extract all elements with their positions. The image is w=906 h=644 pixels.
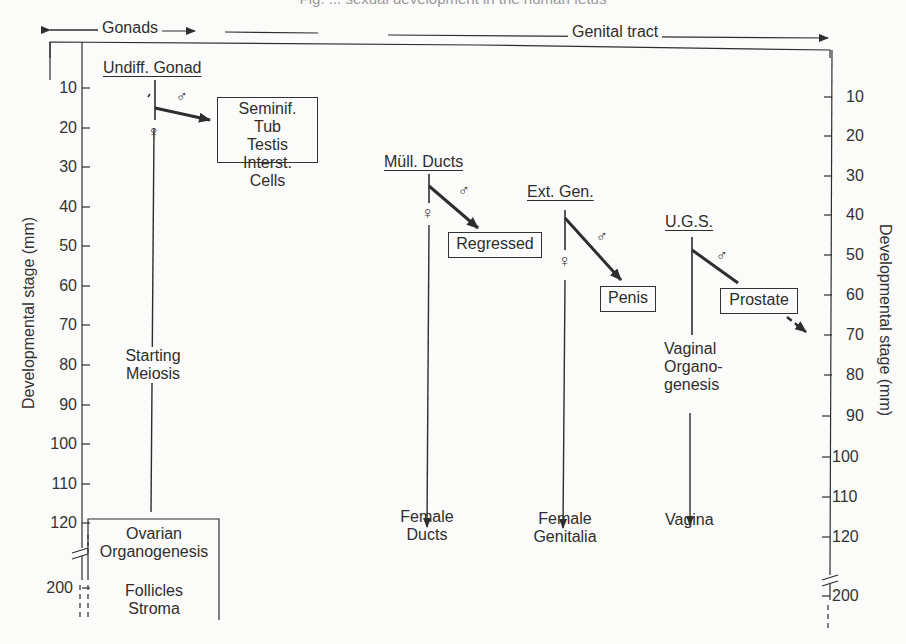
female-symbol-icon: ♀	[421, 205, 435, 221]
left-tick: 200	[33, 580, 73, 596]
male-symbol-icon: ♂	[176, 89, 188, 105]
left-tick: 110	[37, 476, 77, 492]
label-line: Organogenesis	[91, 543, 217, 561]
right-tick: 10	[846, 89, 864, 105]
left-tick: 70	[37, 317, 77, 333]
left-tick: 50	[37, 238, 77, 254]
label-line: Female	[522, 510, 608, 528]
label-line: Starting	[115, 347, 191, 365]
left-tick: 100	[37, 436, 77, 452]
left-tick: 30	[37, 159, 77, 175]
right-tick: 60	[846, 287, 864, 303]
right-tick: 20	[846, 128, 864, 144]
label-line: Organo-	[664, 358, 723, 376]
label-line: Follicles	[91, 582, 217, 600]
right-tick: 100	[832, 449, 859, 465]
follicles-stroma-label: Follicles Stroma	[91, 582, 217, 618]
female-genitalia-label: Female Genitalia	[522, 510, 608, 546]
right-tick: 50	[846, 247, 864, 263]
female-symbol-icon: ♀	[147, 124, 161, 140]
outcome-line: Interst. Cells	[224, 154, 311, 190]
right-tick: 120	[832, 529, 859, 545]
right-axis-label: Developmental stage (mm)	[876, 224, 894, 414]
label-line: Ovarian	[91, 525, 217, 543]
testis-outcome-box: Seminif. Tub Testis Interst. Cells	[217, 97, 318, 163]
right-tick: 110	[832, 489, 858, 505]
label-line: Female	[390, 508, 464, 526]
header-genital-tract: Genital tract	[568, 23, 662, 41]
outcome-line: Seminif. Tub	[224, 100, 311, 136]
left-tick: 20	[37, 120, 77, 136]
external-genitalia-title: Ext. Gen.	[527, 183, 594, 201]
right-tick: 30	[846, 168, 864, 184]
right-tick: 90	[846, 408, 864, 424]
left-tick: 40	[37, 199, 77, 215]
female-ducts-label: Female Ducts	[390, 508, 464, 544]
left-tick: 120	[37, 515, 77, 531]
label-line: Genitalia	[522, 528, 608, 546]
ovarian-organogenesis-label: Ovarian Organogenesis	[91, 525, 217, 561]
outcome-line: Testis	[224, 136, 311, 154]
left-tick: 90	[37, 397, 77, 413]
penis-box: Penis	[600, 286, 656, 312]
header-gonads: Gonads	[98, 19, 162, 37]
vaginal-organogenesis-label: Vaginal Organo- genesis	[664, 340, 723, 394]
vagina-label: Vagina	[665, 511, 714, 529]
male-symbol-icon: ♂	[716, 248, 728, 264]
label-line: Stroma	[91, 600, 217, 618]
right-tick: 80	[846, 367, 864, 383]
prostate-box: Prostate	[720, 288, 798, 314]
left-tick: 10	[37, 80, 77, 96]
label-line: Meiosis	[115, 365, 191, 383]
right-tick: 70	[846, 327, 864, 343]
mullerian-title: Müll. Ducts	[384, 153, 463, 171]
right-tick: 200	[832, 588, 859, 604]
label-line: Vaginal	[664, 340, 723, 358]
male-symbol-icon: ♂	[596, 229, 608, 245]
regressed-box: Regressed	[448, 232, 542, 258]
gonad-title: Undiff. Gonad	[103, 59, 201, 77]
male-symbol-icon: ♂	[458, 183, 470, 199]
female-symbol-icon: ♀	[558, 253, 572, 269]
label-line: genesis	[664, 376, 723, 394]
starting-meiosis-label: Starting Meiosis	[115, 347, 191, 383]
left-tick: 60	[37, 278, 77, 294]
label-line: Ducts	[390, 526, 464, 544]
ugs-title: U.G.S.	[665, 213, 713, 231]
left-axis-label: Developmental stage (mm)	[20, 219, 38, 409]
right-tick: 40	[846, 207, 864, 223]
left-tick: 80	[37, 357, 77, 373]
